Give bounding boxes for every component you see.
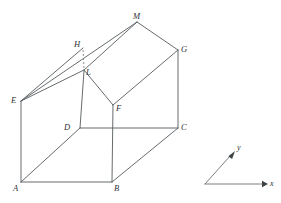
edge-B-C — [112, 128, 178, 182]
edge-H-L-hidden — [83, 50, 84, 68]
edge-A-D — [21, 128, 80, 182]
vertex-label-C: C — [181, 123, 187, 132]
vertex-label-E: E — [11, 96, 16, 105]
edge-E-H — [21, 48, 83, 101]
edge-D-L — [80, 71, 84, 128]
edge-B-F — [112, 105, 113, 182]
x-axis-arrowhead-icon — [262, 181, 268, 187]
y-axis-arrowhead-icon — [228, 151, 235, 159]
vertex-label-H: H — [74, 40, 80, 49]
dashed-edges-group — [83, 50, 84, 68]
y-axis-line — [205, 155, 231, 184]
vertex-label-M: M — [133, 12, 140, 21]
solid-edges-group — [21, 22, 178, 182]
figure-canvas — [0, 0, 281, 203]
vertex-label-L: L — [86, 68, 91, 77]
axis-indicator-group — [205, 151, 268, 187]
vertex-label-D: D — [64, 123, 70, 132]
y-axis-label: y — [237, 144, 241, 152]
vertex-label-B: B — [114, 184, 119, 193]
edge-G-M — [137, 22, 178, 50]
vertex-label-A: A — [13, 184, 18, 193]
edge-L-M — [84, 22, 137, 70]
edge-E-M — [21, 22, 137, 101]
vertex-label-G: G — [181, 45, 187, 54]
vertex-label-F: F — [116, 104, 121, 113]
edge-F-G — [113, 50, 178, 105]
geometry-figure: A B C D E F G H L M x y — [0, 0, 281, 203]
x-axis-label: x — [270, 180, 274, 188]
